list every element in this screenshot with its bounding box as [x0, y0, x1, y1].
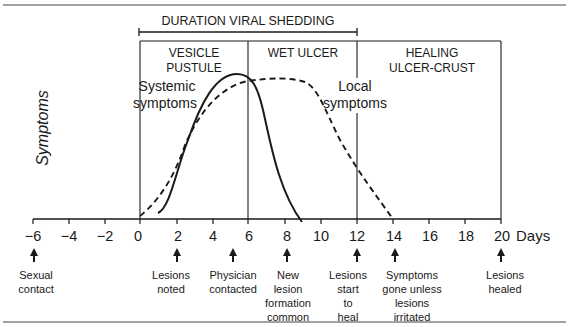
arrow-up-icon [353, 248, 361, 262]
stage-label-vesicle: VESICLE [169, 46, 220, 60]
svg-text:Sexual: Sexual [19, 269, 53, 281]
arrow-up-icon [283, 248, 291, 262]
x-axis: −6 −4 −2 0 2 4 6 8 10 12 14 16 18 20 Day… [25, 219, 550, 244]
svg-text:Lesions: Lesions [329, 269, 367, 281]
stage-label-ulcer-crust: ULCER-CRUST [389, 61, 476, 75]
y-axis-label: Symptoms [34, 90, 51, 166]
tick-label: 10 [313, 228, 329, 244]
stage-label-healing: HEALING [406, 46, 459, 60]
svg-text:Lesions: Lesions [152, 269, 190, 281]
arrow-up-icon [30, 248, 38, 262]
x-axis-unit: Days [516, 227, 550, 244]
svg-text:contacted: contacted [209, 283, 257, 295]
arrow-up-icon [497, 248, 505, 262]
systemic-label-line1: Systemic [139, 78, 196, 94]
svg-text:formation: formation [265, 297, 311, 309]
event-new-lesion-formation: New lesion formation common [265, 269, 311, 323]
event-lesions-start-to-heal: Lesions start to heal [329, 269, 367, 323]
svg-text:Physician: Physician [209, 269, 256, 281]
systemic-label-line2: symptoms [133, 95, 197, 111]
tick-label: 6 [245, 228, 253, 244]
tick-label: 2 [174, 228, 182, 244]
tick-label: 12 [349, 228, 365, 244]
tick-label: −6 [25, 228, 42, 244]
svg-text:New: New [277, 269, 299, 281]
stage-label-pustule: PUSTULE [166, 61, 221, 75]
svg-text:lesion: lesion [274, 283, 303, 295]
tick-label: 4 [209, 228, 217, 244]
event-sexual-contact: Sexual contact [18, 269, 53, 295]
tick-label: 14 [386, 228, 402, 244]
local-label-line2: symptoms [323, 95, 387, 111]
svg-text:noted: noted [157, 283, 185, 295]
tick-label: −4 [61, 228, 78, 244]
svg-text:heal: heal [338, 311, 359, 323]
svg-text:common: common [267, 311, 309, 323]
event-lesions-noted: Lesions noted [152, 269, 190, 295]
event-symptoms-gone: Symptoms gone unless lesions irritated [382, 269, 442, 323]
svg-text:Symptoms: Symptoms [386, 269, 438, 281]
stage-label-wet-ulcer: WET ULCER [268, 46, 339, 60]
svg-text:to: to [343, 297, 352, 309]
arrow-up-icon [173, 248, 181, 262]
diagram-title: DURATION VIRAL SHEDDING [162, 14, 335, 28]
local-label-line1: Local [338, 78, 371, 94]
tick-label: 20 [494, 228, 510, 244]
tick-label: −2 [97, 228, 114, 244]
arrow-up-icon [229, 248, 237, 262]
tick-label: 16 [422, 228, 438, 244]
tick-label: 18 [458, 228, 474, 244]
event-arrows [30, 248, 505, 262]
tick-label: 8 [283, 228, 291, 244]
event-lesions-healed: Lesions healed [486, 269, 524, 295]
svg-text:contact: contact [18, 283, 53, 295]
svg-text:Lesions: Lesions [486, 269, 524, 281]
viral-shedding-bracket [139, 28, 357, 36]
svg-text:lesions: lesions [395, 297, 430, 309]
herpes-timeline-diagram: DURATION VIRAL SHEDDING VESICLE PUSTULE … [0, 0, 569, 327]
svg-text:irritated: irritated [394, 311, 431, 323]
svg-text:healed: healed [488, 283, 521, 295]
tick-label: 0 [134, 228, 142, 244]
arrow-up-icon [391, 248, 399, 262]
svg-text:gone unless: gone unless [382, 283, 442, 295]
svg-text:start: start [337, 283, 358, 295]
event-physician-contacted: Physician contacted [209, 269, 257, 295]
